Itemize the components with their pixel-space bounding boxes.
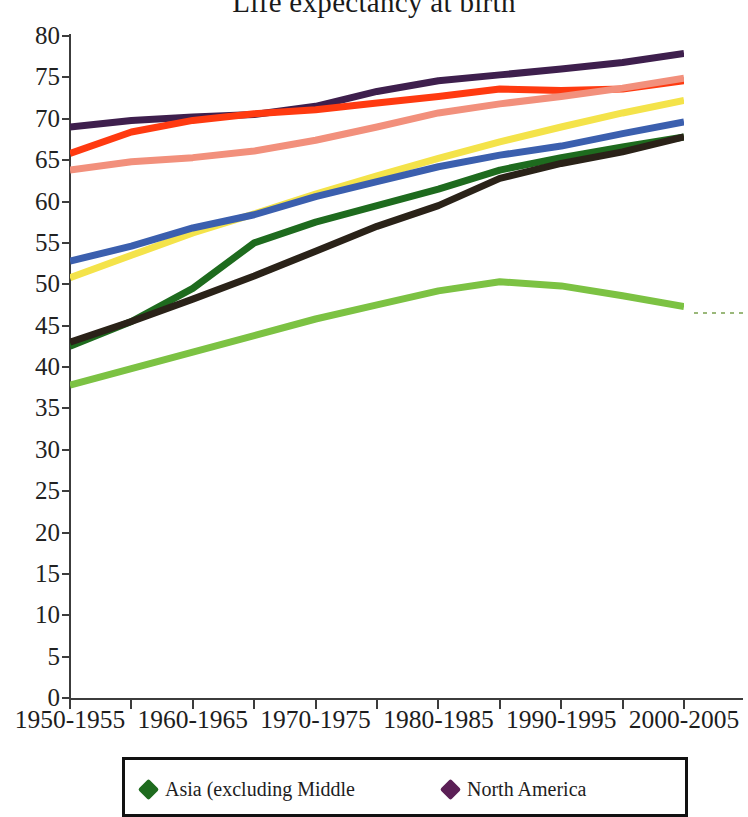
series-line: [70, 122, 684, 261]
y-axis-tick: [62, 490, 70, 492]
y-axis-tick: [62, 242, 70, 244]
x-axis-label: 1990-1995: [499, 706, 623, 734]
y-axis-label: 75: [6, 64, 60, 89]
y-axis-tick: [62, 118, 70, 120]
legend-item-asia[interactable]: Asia (excluding Middle: [141, 778, 355, 801]
x-axis-label: 1950-1955: [8, 706, 132, 734]
y-axis-label: 10: [6, 602, 60, 627]
y-axis-tick: [62, 283, 70, 285]
y-axis-label: 55: [6, 230, 60, 255]
y-axis-label: 25: [6, 478, 60, 503]
y-axis-tick: [62, 35, 70, 37]
y-axis-label: 45: [6, 313, 60, 338]
y-axis-label: 40: [6, 354, 60, 379]
y-axis-label: 35: [6, 395, 60, 420]
y-axis-tick: [62, 159, 70, 161]
y-axis-label: 60: [6, 189, 60, 214]
chart-legend: Asia (excluding Middle North America: [122, 757, 688, 817]
series-line: [70, 282, 684, 385]
x-axis-label: 1980-1985: [376, 706, 500, 734]
y-axis-tick: [62, 325, 70, 327]
y-axis-tick: [62, 76, 70, 78]
y-axis-tick: [62, 614, 70, 616]
x-axis-label: 2000-2005: [622, 706, 746, 734]
y-axis-tick: [62, 449, 70, 451]
y-axis-tick: [62, 697, 70, 699]
x-axis-label: 1970-1975: [254, 706, 378, 734]
y-axis-tick: [62, 407, 70, 409]
plot-area: [70, 36, 684, 698]
y-axis-tick: [62, 656, 70, 658]
y-axis-label: 65: [6, 147, 60, 172]
chart-title: Life expectancy at birth: [0, 0, 748, 19]
y-axis-label: 20: [6, 520, 60, 545]
legend-marker-diamond-icon: [440, 779, 461, 800]
y-axis-label: 80: [6, 23, 60, 48]
y-axis-tick: [62, 573, 70, 575]
legend-item-north-america[interactable]: North America: [443, 778, 586, 801]
y-axis-label: 5: [6, 644, 60, 669]
y-axis-label: 50: [6, 271, 60, 296]
y-axis-tick: [62, 201, 70, 203]
y-axis-label: 70: [6, 106, 60, 131]
legend-marker-diamond-icon: [138, 779, 159, 800]
y-axis-tick: [62, 366, 70, 368]
legend-label-north-america: North America: [467, 778, 586, 801]
x-axis-label: 1960-1965: [131, 706, 255, 734]
africa-trend-dotted-tail: [694, 312, 746, 314]
y-axis-label: 15: [6, 561, 60, 586]
legend-label-asia: Asia (excluding Middle: [165, 778, 355, 801]
x-axis-line: [69, 698, 743, 700]
y-axis-tick: [62, 532, 70, 534]
y-axis-label: 30: [6, 437, 60, 462]
